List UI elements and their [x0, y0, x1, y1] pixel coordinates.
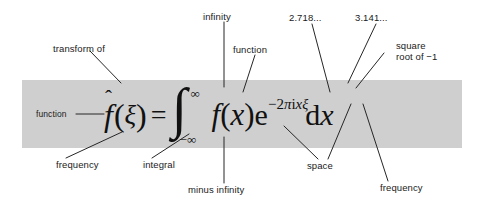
exponent-expression: −2πixξ	[268, 96, 308, 113]
exponential-base: e	[255, 98, 268, 132]
lhs-close-paren: )	[136, 97, 147, 134]
fourier-transform-equation: ˆf (ξ) = ∫ ∞ −∞ f(x)e−2πixξdx	[104, 84, 334, 146]
annotation-pi-constant: 3.141...	[355, 12, 388, 23]
leader-pi-constant	[348, 24, 376, 83]
exponent-frequency-variable: ξ	[302, 97, 308, 112]
annotation-transform-of: transform of	[53, 43, 105, 54]
integral-lower-limit: −∞	[180, 132, 197, 148]
integrand-function: f(x)	[212, 97, 255, 133]
function-hat-symbol: ˆf	[104, 97, 114, 134]
integral-operator: ∫ ∞ −∞	[172, 86, 206, 144]
annotation-minus-infinity: minus infinity	[188, 184, 244, 195]
annotation-function-left: function	[36, 109, 67, 120]
differential-variable: x	[320, 98, 333, 131]
fourier-transform-diagram: ˆf (ξ) = ∫ ∞ −∞ f(x)e−2πixξdx transform …	[0, 0, 482, 211]
annotation-infinity: infinity	[203, 11, 231, 22]
integrand-space-variable: x	[231, 97, 245, 132]
annotation-sqrt-minus-one-line2: root of −1	[396, 51, 437, 62]
lhs-open-paren: (	[114, 97, 125, 134]
integrand-open-paren: (	[220, 97, 230, 132]
annotation-frequency-left: frequency	[56, 159, 99, 170]
annotation-sqrt-minus-one: square root of −1	[396, 40, 462, 62]
integrand-function-letter: f	[212, 97, 221, 132]
differential: dx	[305, 98, 333, 132]
integral-sign: ∫	[172, 80, 187, 136]
equals-sign: =	[151, 99, 167, 131]
annotation-frequency-right: frequency	[380, 182, 423, 193]
integrand-close-paren: )	[244, 97, 254, 132]
integral-upper-limit: ∞	[191, 86, 200, 102]
annotation-integral: integral	[143, 159, 175, 170]
annotation-space: space	[307, 160, 333, 171]
hat-accent: ˆ	[105, 86, 112, 111]
exponent-two: 2	[276, 96, 284, 112]
annotation-e-constant: 2.718...	[289, 12, 322, 23]
annotation-sqrt-minus-one-line1: square	[396, 40, 426, 51]
annotation-function-top: function	[233, 44, 267, 55]
lhs-frequency-variable: ξ	[125, 100, 137, 131]
leader-transform-of	[90, 51, 121, 83]
